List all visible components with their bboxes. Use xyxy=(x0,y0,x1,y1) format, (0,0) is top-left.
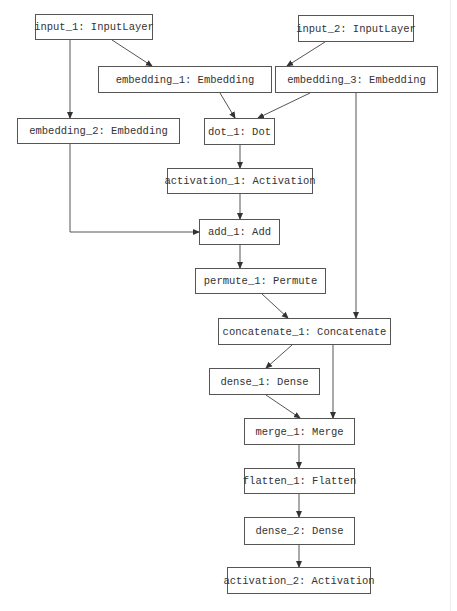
node-permute-1: permute_1: Permute xyxy=(195,268,326,294)
node-dot-1: dot_1: Dot xyxy=(204,118,275,145)
node-merge-1: merge_1: Merge xyxy=(244,418,355,445)
node-input-1: input_1: InputLayer xyxy=(35,14,153,40)
node-embedding-2: embedding_2: Embedding xyxy=(17,118,180,144)
node-activation-2: activation_2: Activation xyxy=(227,567,371,594)
node-label: input_2: InputLayer xyxy=(296,23,416,35)
node-embedding-3: embedding_3: Embedding xyxy=(275,66,438,93)
node-label: add_1: Add xyxy=(208,226,271,238)
node-input-2: input_2: InputLayer xyxy=(298,15,414,42)
edge-permute_1-to-concatenate_1 xyxy=(262,294,288,318)
node-label: embedding_1: Embedding xyxy=(116,74,255,86)
node-label: embedding_3: Embedding xyxy=(287,74,426,86)
edge-concatenate_1-to-dense_1 xyxy=(266,345,292,368)
edge-input_1-to-embedding_1 xyxy=(112,40,152,66)
edge-input_2-to-embedding_3 xyxy=(287,42,325,66)
edge-embedding_3-to-dot_1 xyxy=(258,93,310,118)
node-label: flatten_1: Flatten xyxy=(243,475,356,487)
node-label: dense_1: Dense xyxy=(220,376,308,388)
node-label: dense_2: Dense xyxy=(255,525,343,537)
node-flatten-1: flatten_1: Flatten xyxy=(244,468,355,494)
node-label: merge_1: Merge xyxy=(255,426,343,438)
node-label: activation_1: Activation xyxy=(164,175,315,187)
node-label: permute_1: Permute xyxy=(204,275,317,287)
edge-dense_1-to-merge_1 xyxy=(266,395,300,418)
node-dense-1: dense_1: Dense xyxy=(209,368,320,395)
node-activation-1: activation_1: Activation xyxy=(167,168,313,194)
node-concatenate-1: concatenate_1: Concatenate xyxy=(218,318,391,345)
edge-embedding_1-to-dot_1 xyxy=(220,93,235,118)
node-label: activation_2: Activation xyxy=(223,575,374,587)
node-label: embedding_2: Embedding xyxy=(29,125,168,137)
node-embedding-1: embedding_1: Embedding xyxy=(98,66,272,93)
node-add-1: add_1: Add xyxy=(199,219,280,245)
node-label: concatenate_1: Concatenate xyxy=(223,326,387,338)
node-label: dot_1: Dot xyxy=(208,126,271,138)
model-graph-diagram: input_1: InputLayerinput_2: InputLayerem… xyxy=(0,0,457,611)
node-label: input_1: InputLayer xyxy=(34,21,154,33)
node-dense-2: dense_2: Dense xyxy=(244,517,355,545)
